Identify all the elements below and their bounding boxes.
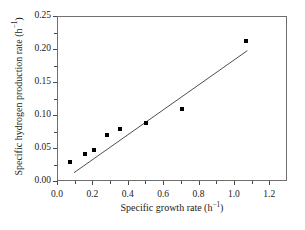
y-tick-major <box>53 115 57 116</box>
data-point <box>105 133 109 137</box>
chart-figure: 0.00.20.40.60.81.01.2 0.000.050.100.150.… <box>0 0 305 230</box>
y-tick-minor <box>54 66 57 67</box>
x-tick-major <box>57 181 58 185</box>
x-tick-major <box>163 181 164 185</box>
y-tick-label: 0.15 <box>21 77 51 87</box>
x-tick-major <box>128 181 129 185</box>
x-tick-label: 0.6 <box>149 190 177 200</box>
data-point <box>118 127 122 131</box>
trendline-segment <box>74 51 247 173</box>
data-point <box>68 160 72 164</box>
y-tick-minor <box>54 33 57 34</box>
y-tick-major <box>53 49 57 50</box>
x-tick-label: 0.0 <box>43 190 71 200</box>
x-tick-minor <box>110 181 111 184</box>
y-axis-title: Specific hydrogen production rate (h−1) <box>13 12 24 182</box>
x-axis-title: Specific growth rate (h−1) <box>57 202 287 213</box>
data-point <box>144 121 148 125</box>
x-tick-label: 1.0 <box>220 190 248 200</box>
x-tick-label: 0.8 <box>185 190 213 200</box>
y-axis-title-exponent: −1 <box>11 21 19 29</box>
y-tick-label: 0.20 <box>21 44 51 54</box>
y-tick-major <box>53 181 57 182</box>
x-tick-minor <box>216 181 217 184</box>
x-tick-label: 0.4 <box>114 190 142 200</box>
data-point <box>83 152 87 156</box>
data-point <box>180 107 184 111</box>
y-tick-major <box>53 148 57 149</box>
x-tick-minor <box>252 181 253 184</box>
y-tick-minor <box>54 132 57 133</box>
y-tick-major <box>53 16 57 17</box>
x-tick-minor <box>181 181 182 184</box>
plot-area <box>57 16 287 181</box>
x-axis-title-exponent: −1 <box>212 201 220 209</box>
y-tick-major <box>53 82 57 83</box>
x-tick-minor <box>75 181 76 184</box>
x-tick-major <box>234 181 235 185</box>
x-tick-major <box>92 181 93 185</box>
x-axis-title-paren: ) <box>220 202 223 213</box>
y-tick-label: 0.10 <box>21 110 51 120</box>
y-tick-label: 0.05 <box>21 143 51 153</box>
x-tick-major <box>269 181 270 185</box>
y-axis-title-paren: ) <box>13 17 24 20</box>
x-tick-label: 0.2 <box>78 190 106 200</box>
x-axis-title-text: Specific growth rate (h <box>121 202 213 213</box>
y-tick-minor <box>54 99 57 100</box>
y-tick-label: 0.25 <box>21 11 51 21</box>
x-tick-label: 1.2 <box>255 190 283 200</box>
data-point <box>244 39 248 43</box>
y-axis-title-text: Specific hydrogen production rate (h <box>13 28 24 175</box>
trendline <box>58 17 288 182</box>
x-tick-major <box>199 181 200 185</box>
data-point <box>92 148 96 152</box>
x-tick-minor <box>145 181 146 184</box>
y-tick-label: 0.00 <box>21 176 51 186</box>
y-tick-minor <box>54 165 57 166</box>
